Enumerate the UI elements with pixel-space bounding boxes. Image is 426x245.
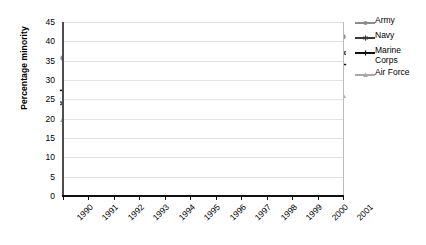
- x-axis-tick-mark: [139, 196, 140, 200]
- x-axis-tick-label: 1997: [253, 202, 273, 222]
- y-axis-tick-label: 30: [15, 75, 55, 85]
- x-axis-tick-label: 2001: [355, 202, 375, 222]
- y-axis-tick-label: 0: [15, 191, 55, 201]
- x-axis-tick-label: 1992: [125, 202, 145, 222]
- legend-marker-asterisk-icon: [355, 32, 375, 43]
- legend-item-air-force[interactable]: Air Force: [355, 68, 425, 80]
- x-axis-tick-label: 1995: [202, 202, 222, 222]
- x-axis-tick-label: 2000: [329, 202, 349, 222]
- y-axis-tick-label: 10: [15, 152, 55, 162]
- y-axis-tick-label: 40: [15, 36, 55, 46]
- x-axis-tick-label: 1993: [151, 202, 171, 222]
- x-axis-tick-mark: [241, 196, 242, 200]
- chart-legend: ArmyNavyMarine CorpsAir Force: [355, 16, 425, 83]
- y-axis-tick-label: 35: [15, 56, 55, 66]
- plot-right-border: [343, 22, 344, 196]
- legend-item-marine-corps[interactable]: Marine Corps: [355, 46, 425, 65]
- x-axis-tick-mark: [267, 196, 268, 200]
- x-axis-tick-mark: [88, 196, 89, 200]
- y-axis-line: [62, 22, 64, 196]
- x-axis-tick-label: 1991: [100, 202, 120, 222]
- x-axis-tick-mark: [216, 196, 217, 200]
- legend-label: Army: [375, 16, 395, 26]
- x-axis-tick-mark: [190, 196, 191, 200]
- legend-marker-circle-icon: [355, 17, 375, 28]
- legend-marker-triangle-icon: [355, 69, 375, 80]
- y-axis-tick-label: 15: [15, 133, 55, 143]
- gridline: [62, 22, 344, 23]
- x-axis-tick-mark: [318, 196, 319, 200]
- x-axis-tick-mark: [165, 196, 166, 200]
- gridline: [62, 41, 344, 42]
- x-axis-tick-label: 1990: [75, 202, 95, 222]
- legend-label: Marine Corps: [375, 46, 425, 65]
- legend-label: Air Force: [375, 68, 409, 78]
- x-axis-tick-mark: [114, 196, 115, 200]
- x-axis-tick-mark: [292, 196, 293, 200]
- legend-item-army[interactable]: Army: [355, 16, 425, 28]
- line-chart: Percentage minority 051015202530354045 1…: [0, 0, 426, 245]
- legend-label: Navy: [375, 31, 394, 41]
- x-axis-tick-label: 1996: [227, 202, 247, 222]
- y-axis-tick-label: 45: [15, 17, 55, 27]
- gridline: [62, 99, 344, 100]
- gridline: [62, 177, 344, 178]
- x-axis-tick-label: 1998: [278, 202, 298, 222]
- gridline: [62, 80, 344, 81]
- plot-background: [62, 22, 344, 196]
- x-axis-tick-mark: [63, 196, 64, 200]
- x-axis-tick-mark: [343, 196, 344, 200]
- gridline: [62, 157, 344, 158]
- x-axis-tick-label: 1994: [176, 202, 196, 222]
- y-axis-tick-labels: 051015202530354045: [0, 22, 60, 196]
- y-axis-tick-label: 5: [15, 172, 55, 182]
- y-axis-tick-label: 20: [15, 114, 55, 124]
- y-axis-tick-label: 25: [15, 94, 55, 104]
- gridline: [62, 138, 344, 139]
- x-axis-tick-labels: 1990199119921993199419951996199719981999…: [62, 196, 344, 244]
- legend-item-navy[interactable]: Navy: [355, 31, 425, 43]
- legend-marker-plus-icon: [355, 47, 375, 58]
- x-axis-tick-label: 1999: [304, 202, 324, 222]
- plot-area: [62, 22, 344, 196]
- gridline: [62, 61, 344, 62]
- gridline: [62, 119, 344, 120]
